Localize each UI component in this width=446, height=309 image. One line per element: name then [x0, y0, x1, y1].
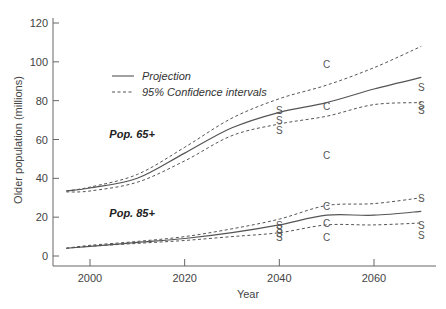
pop-65-lower-95-ci-line	[66, 103, 421, 192]
marker-s: S	[276, 125, 283, 136]
marker-c: C	[323, 218, 330, 229]
marker-c: C	[323, 150, 330, 161]
legend-label: Projection	[142, 70, 191, 82]
y-tick-label: 60	[36, 134, 48, 146]
series-label: Pop. 65+	[109, 128, 155, 140]
pop-85-upper-95-ci-line	[66, 198, 421, 248]
x-tick-label: 2000	[78, 272, 102, 284]
legend-label: 95% Confidence intervals	[142, 86, 267, 98]
y-tick-label: 0	[42, 250, 48, 262]
y-tick-label: 100	[30, 56, 48, 68]
x-axis-title: Year	[237, 288, 260, 300]
marker-s: S	[276, 232, 283, 243]
pop-65-upper-95-ci-line	[66, 46, 421, 191]
marker-s: S	[418, 82, 425, 93]
marker-c: C	[323, 101, 330, 112]
marker-c: C	[323, 201, 330, 212]
y-tick-label: 80	[36, 95, 48, 107]
y-tick-label: 40	[36, 172, 48, 184]
marker-c: C	[323, 232, 330, 243]
marker-s: S	[418, 193, 425, 204]
x-tick-label: 2060	[362, 272, 386, 284]
y-axis-title: Older population (millions)	[12, 76, 24, 204]
line-chart: 0204060801001202000202020402060 SSSCCCSS…	[0, 0, 446, 309]
y-tick-label: 20	[36, 211, 48, 223]
legend: Projection95% Confidence intervals	[112, 70, 267, 98]
marker-c: C	[323, 59, 330, 70]
x-tick-label: 2040	[267, 272, 291, 284]
marker-s: S	[418, 230, 425, 241]
series-label: Pop. 85+	[109, 207, 155, 219]
marker-s: S	[418, 105, 425, 116]
y-tick-label: 120	[30, 17, 48, 29]
axes: 0204060801001202000202020402060	[30, 17, 436, 284]
x-tick-label: 2020	[172, 272, 196, 284]
